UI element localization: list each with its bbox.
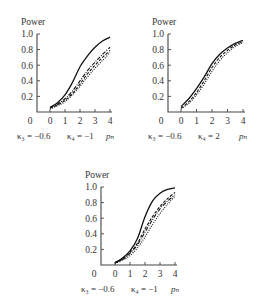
x-tick-label: 0 (179, 116, 184, 126)
x-tick-label: 2 (210, 116, 215, 126)
series-dash-dot (50, 47, 110, 108)
y-tick-label: 0.8 (21, 45, 33, 55)
axes (101, 187, 177, 265)
x-tick-label: 2 (143, 269, 148, 279)
y-tick-label: 0.6 (152, 61, 164, 71)
power-curves-figure: Power0.20.40.60.81.0012340κ₃ = −0.6κ₄ = … (0, 0, 275, 303)
series-dashed (181, 42, 243, 108)
origin-label: 0 (92, 269, 97, 279)
series-solid (115, 188, 175, 263)
y-tick-label: 0.6 (85, 214, 97, 224)
y-tick-label: 0.2 (85, 245, 97, 255)
panel-top-right: Power0.20.40.60.81.0012340κ₃ = −0.6κ₄ = … (148, 17, 248, 141)
y-tick-label: 0.4 (85, 229, 97, 239)
kappa3-label: κ₃ = −0.6 (81, 284, 115, 294)
kappa4-label: κ₄ = −1 (67, 131, 94, 141)
x-tick-label: 3 (158, 269, 163, 279)
x-tick-label: 1 (63, 116, 68, 126)
x-tick-label: 3 (225, 116, 230, 126)
kappa3-label: κ₃ = −0.6 (17, 131, 51, 141)
y-tick-label: 1.0 (152, 29, 164, 39)
panel-top-left: Power0.20.40.60.81.0012340κ₃ = −0.6κ₄ = … (17, 17, 115, 141)
x-variable-label: pₙ (170, 284, 180, 294)
x-tick-label: 2 (78, 116, 83, 126)
x-tick-label: 3 (93, 116, 98, 126)
origin-label: 0 (28, 116, 33, 126)
y-tick-label: 0.8 (152, 45, 164, 55)
y-tick-label: 0.4 (21, 76, 33, 86)
x-tick-label: 1 (128, 269, 133, 279)
x-tick-label: 0 (113, 269, 118, 279)
x-tick-label: 4 (108, 116, 113, 126)
series-dotted (115, 196, 175, 263)
panel-bottom-center: Power0.20.40.60.81.0012340κ₃ = −0.6κ₄ = … (81, 170, 180, 294)
y-tick-label: 0.8 (85, 198, 97, 208)
series-dashed-marked (115, 192, 175, 262)
y-tick-label: 0.2 (152, 92, 164, 102)
kappa3-label: κ₃ = −0.6 (148, 131, 182, 141)
x-variable-label: pₙ (105, 131, 115, 141)
kappa4-label: κ₄ = −1 (131, 284, 158, 294)
y-tick-label: 0.6 (21, 61, 33, 71)
y-axis-label: Power (85, 170, 110, 180)
series-dashed (50, 50, 110, 108)
axes (37, 34, 112, 112)
x-tick-label: 4 (241, 116, 246, 126)
y-tick-label: 0.4 (152, 76, 164, 86)
y-tick-label: 1.0 (85, 182, 97, 192)
y-tick-label: 1.0 (21, 29, 33, 39)
y-tick-label: 0.2 (21, 92, 33, 102)
series-dotted (181, 43, 243, 109)
kappa4-label: κ₄ = 2 (198, 131, 220, 141)
origin-label: 0 (159, 116, 164, 126)
x-tick-label: 0 (48, 116, 53, 126)
series-solid (50, 37, 110, 107)
x-tick-label: 1 (194, 116, 199, 126)
x-variable-label: pₙ (238, 131, 248, 141)
y-axis-label: Power (21, 17, 46, 27)
y-axis-label: Power (152, 17, 177, 27)
x-tick-label: 4 (173, 269, 178, 279)
series-solid (181, 40, 243, 106)
